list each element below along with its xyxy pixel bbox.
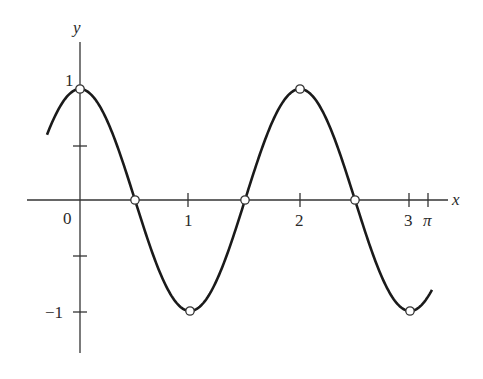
y-axis-label: y — [71, 18, 81, 37]
x-tick-label-3: 3 — [404, 211, 413, 230]
x-tick-label-1: 1 — [184, 211, 193, 230]
data-point — [406, 307, 414, 315]
x-tick-label-pi: π — [423, 211, 432, 230]
data-point — [76, 85, 84, 93]
x-axis-label: x — [451, 190, 460, 209]
data-point — [351, 196, 359, 204]
origin-label: 0 — [63, 209, 72, 228]
cosine-chart: y x 0 1 2 3 π 1 −1 — [0, 0, 483, 379]
x-tick-label-2: 2 — [295, 211, 304, 230]
data-point — [296, 85, 304, 93]
y-tick-label-neg1: −1 — [45, 303, 63, 322]
data-point — [186, 307, 194, 315]
data-point — [241, 196, 249, 204]
data-point — [131, 196, 139, 204]
y-tick-label-1: 1 — [65, 71, 74, 90]
